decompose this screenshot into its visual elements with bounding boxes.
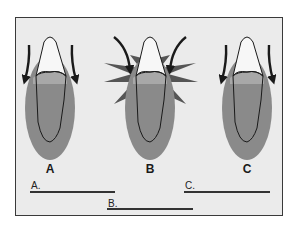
arrow-icon: [269, 45, 273, 80]
panel-c-tooth: [222, 37, 273, 160]
panel-label-b: B: [140, 162, 160, 176]
answer-line-a[interactable]: [30, 191, 115, 193]
answer-line-c[interactable]: [184, 191, 270, 193]
panel-a-tooth: [25, 37, 76, 160]
answer-line-b[interactable]: [107, 208, 193, 210]
arrow-icon: [222, 45, 226, 80]
panel-b-tooth: [104, 37, 198, 160]
panel-label-c: C: [237, 162, 257, 176]
tooth-diagram: [0, 0, 295, 228]
panel-label-a: A: [40, 162, 60, 176]
arrow-icon: [25, 45, 29, 80]
blank-label-c: C.: [185, 180, 195, 191]
blank-label-a: A.: [31, 180, 40, 191]
arrow-icon: [72, 45, 76, 80]
